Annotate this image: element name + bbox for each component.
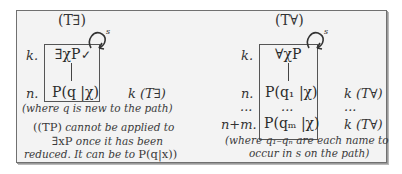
left-note-4-text: reduced. It can be to xyxy=(24,148,135,160)
left-note-3: ∃xP once it has been xyxy=(52,134,163,148)
left-line-n-justification: k (T∃) xyxy=(128,86,166,101)
right-ellipsis-label: ... xyxy=(240,99,252,114)
right-line-nm-justification: k (T∀) xyxy=(344,117,383,132)
right-line-n-formula: P(q₁ |χ) xyxy=(265,84,318,100)
left-tree-branch xyxy=(71,63,72,81)
right-rule-title: (T∀) xyxy=(275,12,304,28)
right-loop-label: s xyxy=(324,27,328,36)
left-note-2-rule: ((TP) xyxy=(33,120,62,134)
left-note-2-text: cannot be applied to xyxy=(65,121,174,133)
right-line-k-label: k. xyxy=(241,48,253,63)
right-ellipsis-formula: ... xyxy=(281,99,293,114)
left-rule-title: (T∃) xyxy=(58,12,86,28)
exists-formula: ∃χP xyxy=(55,46,81,62)
left-line-n-formula: P(q |χ) xyxy=(52,84,99,100)
left-note-4-formula: P(q|x)) xyxy=(138,147,177,161)
left-note-3-formula: ∃xP xyxy=(52,134,72,148)
left-line-k-label: k. xyxy=(26,48,38,63)
left-line-n-label: n. xyxy=(26,86,39,101)
right-line-nm-label: n+m. xyxy=(221,117,257,132)
right-ellipsis-justification: ... xyxy=(344,99,356,114)
right-tree-branch xyxy=(288,63,289,81)
left-loop-label: s xyxy=(106,27,110,36)
left-note-1: (where q is new to the path) xyxy=(22,102,173,114)
right-note-1: (where q₁–qₙ are each name to xyxy=(225,134,388,146)
right-note-2: occur in s on the path) xyxy=(249,147,369,159)
right-line-k-formula: ∀χP xyxy=(275,46,301,62)
right-line-nm-formula: P(qₘ |χ) xyxy=(264,115,320,131)
left-note-4: reduced. It can be to P(q|x)) xyxy=(24,147,177,161)
left-note-2: ((TP) cannot be applied to xyxy=(33,120,174,134)
left-note-3-text: once it has been xyxy=(76,135,163,147)
